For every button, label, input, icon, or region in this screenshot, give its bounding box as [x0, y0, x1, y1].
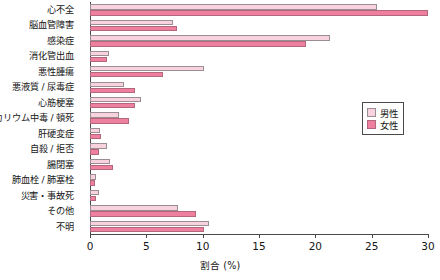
bar-female[interactable]: [90, 57, 107, 62]
category-label: 感染症: [47, 33, 74, 48]
bar-male[interactable]: [90, 205, 178, 210]
x-tick-label: 15: [252, 240, 265, 252]
bar-female[interactable]: [90, 149, 99, 154]
bar-male[interactable]: [90, 112, 119, 117]
category-label: 自殺 / 拒否: [30, 141, 74, 156]
chart-legend: 男性 女性: [362, 102, 404, 135]
bar-male[interactable]: [90, 190, 99, 195]
bar-male[interactable]: [90, 4, 377, 9]
category-label: 肝硬変症: [38, 126, 74, 141]
category-label: 不明: [56, 219, 74, 234]
category-label: 脳血管障害: [29, 17, 74, 32]
chart-row: 脳血管障害: [90, 17, 428, 32]
chart-row: 悪性腫瘍: [90, 64, 428, 79]
legend-item-male[interactable]: 男性: [367, 107, 398, 118]
bar-female[interactable]: [90, 26, 177, 31]
chart-row: 肺血栓 / 肺塞栓: [90, 172, 428, 187]
bar-female[interactable]: [90, 211, 196, 216]
bar-female[interactable]: [90, 103, 135, 108]
bar-male[interactable]: [90, 159, 110, 164]
bar-female[interactable]: [90, 165, 113, 170]
bar-male[interactable]: [90, 35, 330, 40]
x-tick-label: 30: [421, 240, 434, 252]
bar-female[interactable]: [90, 72, 163, 77]
bar-male[interactable]: [90, 97, 141, 102]
bar-male[interactable]: [90, 51, 109, 56]
bar-male[interactable]: [90, 128, 100, 133]
bar-female[interactable]: [90, 41, 306, 46]
x-tick: [90, 234, 91, 238]
chart-row: 感染症: [90, 33, 428, 48]
chart-row: 自殺 / 拒否: [90, 141, 428, 156]
x-tick-label: 25: [365, 240, 378, 252]
bar-male[interactable]: [90, 221, 209, 226]
x-tick: [372, 234, 373, 238]
bar-female[interactable]: [90, 196, 96, 201]
category-label: その他: [47, 203, 74, 218]
x-tick-label: 5: [143, 240, 150, 252]
bar-male[interactable]: [90, 20, 173, 25]
x-tick: [428, 234, 429, 238]
bar-female[interactable]: [90, 180, 95, 185]
bar-female[interactable]: [90, 134, 101, 139]
category-label: 腸閉塞: [47, 157, 74, 172]
category-label: 悪液質 / 尿毒症: [12, 79, 74, 94]
x-tick: [203, 234, 204, 238]
x-tick-label: 10: [196, 240, 209, 252]
x-tick: [315, 234, 316, 238]
bar-male[interactable]: [90, 66, 204, 71]
x-axis-title: 割合 (%): [0, 258, 440, 272]
legend-swatch-male-icon: [367, 108, 376, 117]
bar-male[interactable]: [90, 143, 107, 148]
x-tick-label: 20: [309, 240, 322, 252]
bar-female[interactable]: [90, 88, 135, 93]
bar-female[interactable]: [90, 10, 428, 15]
chart-row: 災害・事故死: [90, 188, 428, 203]
category-label: 悪性腫瘍: [38, 64, 74, 79]
legend-label-female: 女性: [380, 118, 398, 132]
bar-chart: 心不全脳血管障害感染症消化管出血悪性腫瘍悪液質 / 尿毒症心筋梗塞カリウム中毒 …: [0, 0, 440, 280]
chart-row: 消化管出血: [90, 48, 428, 63]
chart-row: 悪液質 / 尿毒症: [90, 79, 428, 94]
chart-row: 不明: [90, 219, 428, 234]
bar-male[interactable]: [90, 174, 96, 179]
x-tick: [259, 234, 260, 238]
x-tick: [146, 234, 147, 238]
chart-row: その他: [90, 203, 428, 218]
bar-female[interactable]: [90, 227, 204, 232]
legend-item-female[interactable]: 女性: [367, 119, 398, 130]
category-label: 心筋梗塞: [38, 95, 74, 110]
category-label: カリウム中毒 / 頓死: [0, 110, 74, 125]
bar-male[interactable]: [90, 82, 124, 87]
category-label: 消化管出血: [29, 48, 74, 63]
legend-swatch-female-icon: [367, 120, 376, 129]
bar-female[interactable]: [90, 118, 129, 123]
chart-row: 腸閉塞: [90, 157, 428, 172]
category-label: 災害・事故死: [21, 188, 74, 203]
x-tick-label: 0: [87, 240, 94, 252]
category-label: 肺血栓 / 肺塞栓: [12, 172, 74, 187]
category-label: 心不全: [47, 2, 74, 17]
chart-row: 心不全: [90, 2, 428, 17]
